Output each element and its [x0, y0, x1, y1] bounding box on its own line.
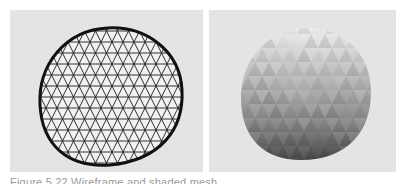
shaded-panel	[209, 10, 396, 172]
shaded-sphere-image	[209, 10, 396, 172]
figure-caption: Figure 5.22 Wireframe and shaded mesh	[10, 176, 217, 184]
wireframe-panel	[10, 10, 203, 172]
wireframe-sphere-image	[10, 10, 203, 172]
